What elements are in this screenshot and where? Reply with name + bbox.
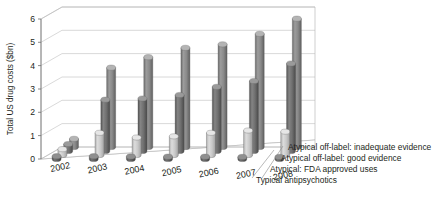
x-tick-2004: 2004 [124, 163, 146, 177]
legend-entry-0: Atypical off-label: inadequate evidence [288, 142, 432, 152]
bar-chart-3d: 6 5 4 3 2 1 0 Total US drug costs ($bn) … [0, 0, 434, 214]
x-tick-2007: 2007 [235, 167, 257, 181]
y-tick-0: 0 [30, 154, 35, 164]
y-axis-title: Total US drug costs ($bn) [6, 43, 15, 136]
bar-cylinder [169, 134, 178, 158]
x-tick-2002: 2002 [49, 160, 71, 174]
y-tick-1: 1 [30, 131, 35, 141]
y-tick-3: 3 [30, 84, 35, 94]
y-axis: 6 5 4 3 2 1 0 Total US drug costs ($bn) [6, 14, 41, 164]
legend-entry-3: Typical antipsychotics [256, 175, 337, 185]
bar-cylinder [244, 128, 253, 158]
x-tick-2005: 2005 [161, 164, 183, 178]
bar-cylinder [126, 154, 135, 162]
y-tick-5: 5 [30, 37, 35, 47]
bar-cylinder [206, 130, 215, 157]
x-tick-2006: 2006 [198, 166, 220, 180]
y-tick-2: 2 [30, 107, 35, 117]
x-tick-2003: 2003 [86, 161, 108, 175]
y-tick-6: 6 [30, 14, 35, 24]
bar-cylinder [164, 154, 173, 162]
legend-entry-1: Atypical off-label: good evidence [281, 153, 402, 163]
bar-cylinder [89, 154, 98, 162]
chart-container: 6 5 4 3 2 1 0 Total US drug costs ($bn) … [0, 0, 434, 214]
y-tick-4: 4 [30, 61, 35, 71]
legend-entry-2: Atypical: FDA approved uses [270, 164, 378, 174]
bar-cylinder [238, 154, 247, 161]
bar-cylinder [95, 130, 104, 157]
bar-cylinder [201, 154, 210, 162]
bar-cylinder [52, 154, 61, 162]
